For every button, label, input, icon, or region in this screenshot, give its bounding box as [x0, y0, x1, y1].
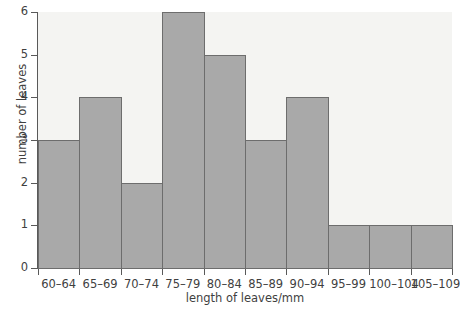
x-axis-tick	[79, 269, 80, 275]
y-axis-tick-label: 6	[2, 6, 28, 18]
y-axis-tick	[31, 183, 37, 184]
histogram-bar	[369, 225, 412, 269]
x-axis-tick-label: 70–74	[121, 277, 162, 291]
x-axis-tick-label: 100–104	[369, 277, 410, 291]
y-axis-tick	[31, 140, 37, 141]
histogram-bar	[204, 55, 246, 269]
x-axis-tick	[369, 269, 370, 275]
y-axis-tick	[31, 12, 37, 13]
y-axis-tick-label: 1	[2, 219, 28, 231]
histogram-bar	[38, 140, 80, 269]
y-axis-tick	[31, 225, 37, 226]
histogram-bar	[79, 97, 122, 269]
y-axis-title: number of leaves	[14, 49, 30, 179]
x-axis-tick-label: 105–109	[411, 277, 452, 291]
x-axis-tick	[286, 269, 287, 275]
x-axis-tick	[162, 269, 163, 275]
y-axis-tick-label: 0	[2, 262, 28, 274]
x-axis-tick	[411, 269, 412, 275]
y-axis-tick	[31, 268, 37, 269]
x-axis-tick-label: 60–64	[38, 277, 79, 291]
histogram-bar	[328, 225, 370, 269]
x-axis-tick	[204, 269, 205, 275]
x-axis-tick	[121, 269, 122, 275]
x-axis-tick-label: 95–99	[328, 277, 369, 291]
histogram-bar	[245, 140, 287, 269]
histogram-chart: 0123456 60–6465–6970–7475–7980–8485–8990…	[0, 0, 460, 312]
histogram-bar	[162, 12, 205, 269]
x-axis-tick-label: 90–94	[286, 277, 327, 291]
y-axis-tick	[31, 55, 37, 56]
x-axis-tick	[245, 269, 246, 275]
x-axis-tick	[328, 269, 329, 275]
x-axis-tick-label: 80–84	[204, 277, 245, 291]
x-axis-tick-label: 65–69	[79, 277, 120, 291]
x-axis-tick-label: 85–89	[245, 277, 286, 291]
histogram-bar	[121, 183, 163, 269]
x-axis-tick	[452, 269, 453, 275]
x-axis-title: length of leaves/mm	[38, 291, 452, 305]
histogram-bar	[286, 97, 329, 269]
y-axis-tick	[31, 97, 37, 98]
x-axis-tick-label: 75–79	[162, 277, 203, 291]
x-axis-tick	[38, 269, 39, 275]
histogram-bar	[411, 225, 453, 269]
